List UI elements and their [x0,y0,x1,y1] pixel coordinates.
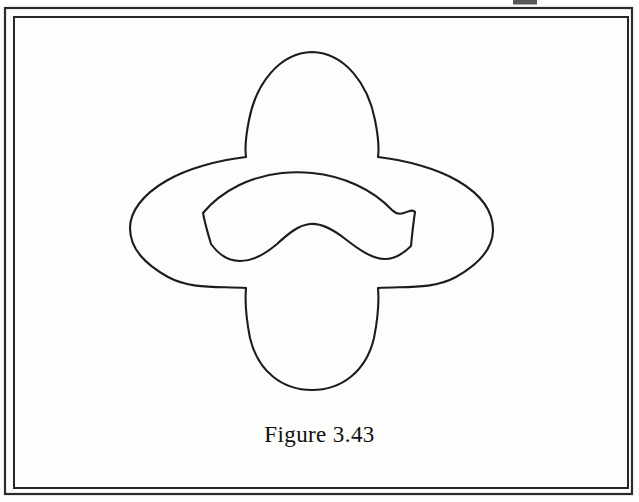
figure-page: Figure 3.43 [0,0,639,502]
scan-smudge-top-edge [513,0,537,5]
figure-caption: Figure 3.43 [0,422,639,448]
